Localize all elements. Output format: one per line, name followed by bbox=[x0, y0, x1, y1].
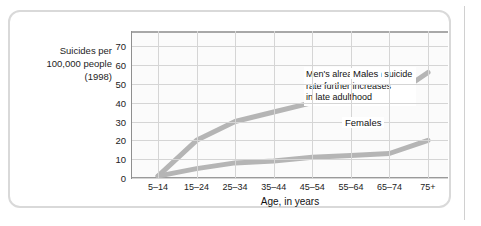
gridline-vertical bbox=[428, 31, 429, 178]
y-axis-tick-label: 50 bbox=[100, 78, 126, 89]
y-axis-tick-label: 30 bbox=[100, 116, 126, 127]
plot-area: Men's already-high suicide rate further … bbox=[132, 31, 448, 178]
figure-root: Suicides per 100,000 people (1998) 01020… bbox=[0, 0, 481, 226]
x-axis-tick-label: 45–54 bbox=[300, 182, 325, 192]
gridline-vertical bbox=[197, 31, 198, 178]
gridline-vertical bbox=[312, 31, 313, 178]
gridline-vertical bbox=[389, 31, 390, 178]
series-label-females: Females bbox=[342, 117, 384, 128]
y-axis-tick-label: 0 bbox=[100, 173, 126, 184]
page-edge-rule bbox=[464, 6, 465, 220]
gridline-vertical bbox=[235, 31, 236, 178]
x-axis-tick-label: 15–24 bbox=[184, 182, 209, 192]
x-axis-tick-label: 55–64 bbox=[338, 182, 363, 192]
x-axis-tick-label: 25–34 bbox=[223, 182, 248, 192]
y-axis-tick-labels: 010203040506070 bbox=[96, 31, 126, 178]
x-axis-tick-label: 35–44 bbox=[261, 182, 286, 192]
gridline-vertical bbox=[158, 31, 159, 178]
x-axis-tick-label: 75+ bbox=[420, 182, 435, 192]
gridline-horizontal bbox=[132, 159, 448, 160]
x-axis-tick-label: 5–14 bbox=[148, 182, 168, 192]
x-axis-tick-label: 65–74 bbox=[377, 182, 402, 192]
x-axis-tick-labels: 5–1415–2425–3435–4445–5455–6465–7475+ bbox=[132, 182, 448, 196]
y-axis-tick-label: 70 bbox=[100, 41, 126, 52]
gridline-horizontal bbox=[132, 122, 448, 123]
y-axis-tick-label: 40 bbox=[100, 97, 126, 108]
series-label-males: Males bbox=[350, 68, 381, 79]
y-axis-tick-label: 60 bbox=[100, 59, 126, 70]
gridline-horizontal bbox=[132, 46, 448, 47]
gridline-horizontal bbox=[132, 140, 448, 141]
gridline-horizontal bbox=[132, 178, 448, 179]
y-axis-tick-label: 10 bbox=[100, 154, 126, 165]
y-axis-tick-label: 20 bbox=[100, 135, 126, 146]
gridline-horizontal bbox=[132, 103, 448, 104]
x-axis-title: Age, in years bbox=[132, 196, 448, 207]
gridline-vertical bbox=[351, 31, 352, 178]
series-line-females bbox=[158, 140, 428, 176]
gridline-horizontal bbox=[132, 84, 448, 85]
gridline-horizontal bbox=[132, 65, 448, 66]
gridline-vertical bbox=[274, 31, 275, 178]
